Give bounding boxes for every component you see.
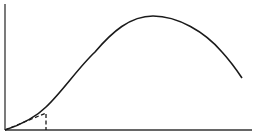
curve-plot: [0, 0, 255, 139]
diagram-figure: [0, 0, 255, 139]
main-curve: [5, 16, 242, 130]
dashed-secant-line: [5, 113, 46, 130]
